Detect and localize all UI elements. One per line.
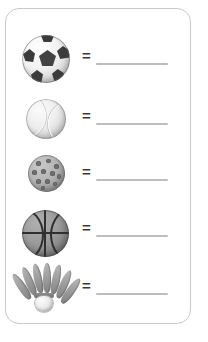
worksheet-row-shuttlecock: = xyxy=(6,257,190,317)
soccer-ball-icon xyxy=(20,33,72,85)
answer-line-row-2[interactable] xyxy=(96,123,168,125)
answer-line-row-5[interactable] xyxy=(96,293,168,295)
worksheet-frame: = = xyxy=(5,8,191,324)
worksheet-row-soccer-ball: = xyxy=(6,27,190,87)
worksheet-row-dimpled-ball: = xyxy=(6,143,190,203)
basketball-shape xyxy=(22,210,69,257)
shuttlecock-shape xyxy=(24,263,68,313)
basketball-icon xyxy=(18,207,72,259)
shuttlecock-cork xyxy=(35,296,53,312)
basketball-rim xyxy=(22,210,69,257)
soccer-ball-rim xyxy=(22,35,70,83)
equals-sign-row-2: = xyxy=(82,108,91,123)
badminton-shuttlecock-icon xyxy=(22,261,70,315)
tennis-ball-shape xyxy=(26,99,66,139)
equals-sign-row-5: = xyxy=(82,278,91,293)
equals-sign-row-3: = xyxy=(82,164,91,179)
tennis-ball-rim xyxy=(26,99,66,139)
answer-line-row-4[interactable] xyxy=(96,235,168,237)
dimpled-ball-rim xyxy=(28,155,65,192)
dimpled-ball-shape xyxy=(28,155,65,192)
answer-line-row-3[interactable] xyxy=(96,179,168,181)
tennis-ball-icon xyxy=(20,95,72,143)
answer-line-row-1[interactable] xyxy=(96,63,168,65)
worksheet-row-tennis-ball: = xyxy=(6,87,190,147)
worksheet-row-basketball: = xyxy=(6,199,190,259)
dimpled-practice-ball-icon xyxy=(20,151,72,195)
soccer-ball-shape xyxy=(22,35,70,83)
equals-sign-row-4: = xyxy=(82,220,91,235)
equals-sign-row-1: = xyxy=(82,48,91,63)
